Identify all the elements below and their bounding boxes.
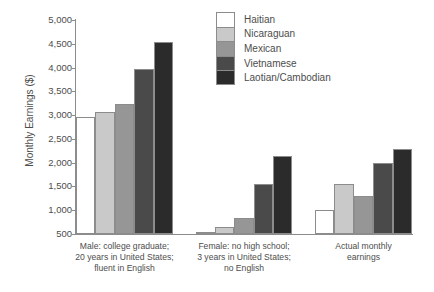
- bar: [354, 196, 373, 234]
- bar: [373, 163, 392, 234]
- y-axis-tick-label: 1,500: [48, 182, 72, 192]
- x-axis-group-label: Male: college graduate;20 years in Unite…: [58, 241, 191, 274]
- legend-swatch: [216, 70, 235, 85]
- legend-item-label: Haitian: [244, 14, 275, 25]
- legend-item: Nicaraguan: [216, 27, 331, 42]
- legend-item: Mexican: [216, 41, 331, 56]
- y-axis-tick-label: 2,500: [48, 134, 72, 144]
- bar: [115, 104, 134, 234]
- bar: [76, 117, 95, 234]
- y-axis-tick-label: 1,000: [48, 205, 72, 215]
- y-axis-tick-label: 4,000: [48, 63, 72, 73]
- x-axis-group-label-line: Actual monthly: [297, 241, 430, 252]
- x-axis-line: [75, 234, 413, 235]
- bar: [234, 218, 253, 234]
- bar: [95, 112, 114, 234]
- legend-swatch: [216, 12, 235, 27]
- legend-swatch: [216, 41, 235, 56]
- bar: [334, 184, 353, 234]
- bar-group: [76, 20, 173, 234]
- legend-item-label: Nicaraguan: [244, 28, 295, 39]
- bar: [315, 210, 334, 234]
- legend-item-label: Laotian/Cambodian: [244, 72, 331, 83]
- bar: [134, 69, 153, 234]
- y-axis-tick-label: 5,000: [48, 15, 72, 25]
- legend-swatch: [216, 56, 235, 71]
- chart-legend: HaitianNicaraguanMexicanVietnameseLaotia…: [216, 12, 331, 85]
- x-axis-group-label-line: Male: college graduate;: [58, 241, 191, 252]
- legend-swatch: [216, 27, 235, 42]
- x-axis-group-label-line: 3 years in United States;: [178, 252, 311, 263]
- bar: [393, 149, 412, 234]
- x-axis-group-label-line: Female: no high school;: [178, 241, 311, 252]
- x-axis-group-label: Female: no high school;3 years in United…: [178, 241, 311, 274]
- bar: [254, 184, 273, 234]
- bar: [215, 227, 234, 234]
- legend-item: Laotian/Cambodian: [216, 70, 331, 85]
- x-axis-group-label-line: earnings: [297, 252, 430, 263]
- legend-item: Haitian: [216, 12, 331, 27]
- bar: [196, 232, 215, 234]
- y-axis-tick-label: 500: [56, 229, 72, 239]
- y-axis-tick-label: 3,500: [48, 87, 72, 97]
- y-axis-tick-mark: [72, 234, 76, 235]
- y-axis-tick-label: 4,500: [48, 39, 72, 49]
- y-axis-tick-label: 3,000: [48, 110, 72, 120]
- x-axis-group-label-line: fluent in English: [58, 263, 191, 274]
- legend-item-label: Vietnamese: [244, 58, 297, 69]
- x-axis-group-label: Actual monthlyearnings: [297, 241, 430, 263]
- legend-item-label: Mexican: [244, 43, 281, 54]
- bar: [273, 156, 292, 234]
- y-axis-title: Monthly Earnings ($): [24, 36, 35, 206]
- x-axis-group-label-line: 20 years in United States;: [58, 252, 191, 263]
- x-axis-group-label-line: no English: [178, 263, 311, 274]
- bar: [154, 42, 173, 234]
- legend-item: Vietnamese: [216, 56, 331, 71]
- y-axis-tick-label: 2,000: [48, 158, 72, 168]
- bar-chart: Monthly Earnings ($) 5001,0001,5002,0002…: [0, 0, 434, 292]
